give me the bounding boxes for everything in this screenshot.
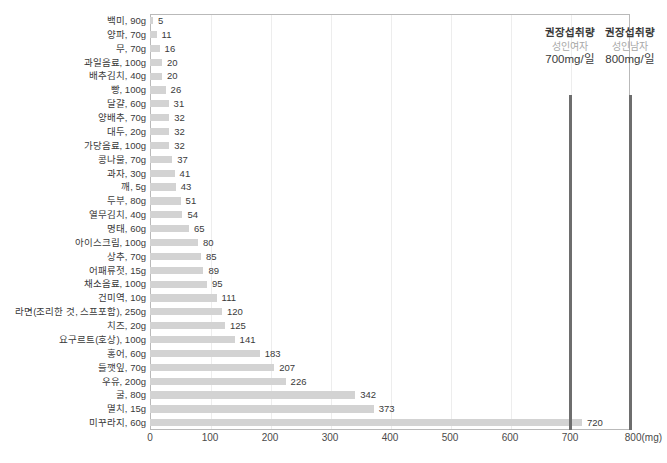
bar <box>150 197 181 204</box>
category-label: 콩나물, 70g <box>98 153 146 166</box>
category-label: 어패류젓, 15g <box>89 264 146 277</box>
bar-value-label: 51 <box>186 194 197 207</box>
bar-row: 상추, 70g85 <box>0 250 651 263</box>
reference-label-group: 성인남자 <box>575 40 667 54</box>
bar-value-label: 342 <box>360 388 376 401</box>
x-tick-label-100: 100 <box>202 432 219 443</box>
bar <box>150 281 207 288</box>
bar <box>150 267 203 274</box>
bar <box>150 308 222 315</box>
bar-row: 콩나물, 70g37 <box>0 153 651 166</box>
category-label: 상추, 70g <box>107 250 146 263</box>
category-label: 라면(조리한 것, 스프포함), 250g <box>15 305 146 318</box>
x-tick-label-600: 600 <box>502 432 519 443</box>
bar-value-label: 11 <box>162 28 172 41</box>
bar-value-label: 16 <box>165 42 176 55</box>
bar-value-label: 32 <box>174 125 185 138</box>
x-tick-label-0: 0 <box>147 432 153 443</box>
bar-value-label: 720 <box>587 416 603 429</box>
bar-row: 우유, 200g226 <box>0 375 651 388</box>
bar <box>150 253 201 260</box>
bar <box>150 156 172 163</box>
category-label: 미꾸라지, 60g <box>89 416 146 429</box>
bar-value-label: 20 <box>167 56 178 69</box>
bar-value-label: 41 <box>180 167 191 180</box>
bar-value-label: 54 <box>187 208 198 221</box>
bar-value-label: 80 <box>203 236 214 249</box>
reference-label-800: 권장섭취량성인남자800mg/일 <box>575 26 667 67</box>
category-label: 명태, 60g <box>107 222 146 235</box>
bar-value-label: 125 <box>230 319 246 332</box>
bar <box>150 405 374 412</box>
bar-row: 명태, 60g65 <box>0 222 651 235</box>
bar-row: 홍어, 60g183 <box>0 347 651 360</box>
bar-row: 라면(조리한 것, 스프포함), 250g120 <box>0 305 651 318</box>
bar <box>150 378 286 385</box>
bar <box>150 294 217 301</box>
bar-value-label: 85 <box>206 250 217 263</box>
x-tick-label-400: 400 <box>382 432 399 443</box>
category-label: 두부, 80g <box>107 194 146 207</box>
category-label: 홍어, 60g <box>107 347 146 360</box>
bar-row: 건미역, 10g111 <box>0 291 651 304</box>
bar <box>150 31 157 38</box>
bar-row: 가당음료, 100g32 <box>0 139 651 152</box>
bar-row: 치즈, 20g125 <box>0 319 651 332</box>
bar-value-label: 26 <box>171 83 182 96</box>
bar-row: 두부, 80g51 <box>0 194 651 207</box>
category-label: 치즈, 20g <box>107 319 146 332</box>
category-label: 대두, 20g <box>107 125 146 138</box>
bar-value-label: 226 <box>291 375 307 388</box>
bar <box>150 59 162 66</box>
bar-row: 굴, 80g342 <box>0 388 651 401</box>
category-label: 요구르트(호상), 100g <box>59 333 146 346</box>
bar <box>150 350 260 357</box>
category-label: 굴, 80g <box>116 388 146 401</box>
x-tick-label-800: 800(mg) <box>625 432 662 443</box>
bar-row: 멸치, 15g373 <box>0 402 651 415</box>
bar-row: 미꾸라지, 60g720 <box>0 416 651 429</box>
bar-value-label: 43 <box>181 180 192 193</box>
bar <box>150 322 225 329</box>
bar <box>150 170 175 177</box>
bar-row: 열무김치, 40g54 <box>0 208 651 221</box>
bar-rows: 백미, 90g5양파, 70g11무, 70g16과일음료, 100g20배추김… <box>0 14 651 430</box>
bar-row: 깨, 5g43 <box>0 180 651 193</box>
bar-value-label: 111 <box>222 291 236 304</box>
bar <box>150 364 274 371</box>
category-label: 양파, 70g <box>107 28 146 41</box>
bar-value-label: 95 <box>212 277 223 290</box>
bar-value-label: 207 <box>279 361 295 374</box>
bar <box>150 419 582 426</box>
bar-row: 어패류젓, 15g89 <box>0 264 651 277</box>
category-label: 백미, 90g <box>107 14 146 27</box>
bar-value-label: 32 <box>174 139 185 152</box>
bar-value-label: 5 <box>158 14 163 27</box>
bar-row: 배추김치, 40g20 <box>0 69 651 82</box>
category-label: 건미역, 10g <box>98 291 146 304</box>
category-label: 우유, 200g <box>102 375 146 388</box>
bar <box>150 114 169 121</box>
bar <box>150 73 162 80</box>
bar <box>150 239 198 246</box>
reference-label-title: 권장섭취량 <box>575 26 667 40</box>
bar-row: 아이스크림, 100g80 <box>0 236 651 249</box>
category-label: 달걀, 60g <box>107 97 146 110</box>
reference-line-800 <box>629 95 632 430</box>
bar-value-label: 37 <box>177 153 188 166</box>
bar-value-label: 65 <box>194 222 205 235</box>
reference-label-amount: 800mg/일 <box>575 53 667 67</box>
bar-row: 달걀, 60g31 <box>0 97 651 110</box>
bar-value-label: 20 <box>167 69 178 82</box>
x-tick-label-500: 500 <box>442 432 459 443</box>
bar-value-label: 31 <box>174 97 185 110</box>
bar-value-label: 89 <box>208 264 219 277</box>
category-label: 열무김치, 40g <box>89 208 146 221</box>
bar <box>150 225 189 232</box>
category-label: 들깻잎, 70g <box>98 361 146 374</box>
bar <box>150 336 235 343</box>
category-label: 과자, 30g <box>107 167 146 180</box>
category-label: 깨, 5g <box>121 180 146 193</box>
bar-row: 들깻잎, 70g207 <box>0 361 651 374</box>
